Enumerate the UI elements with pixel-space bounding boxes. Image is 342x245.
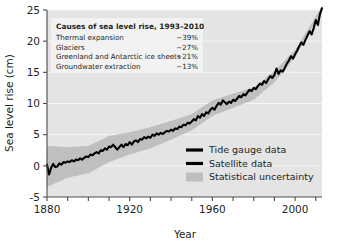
legend-label: Tide gauge data bbox=[208, 144, 286, 155]
annotation-cause-label: Glaciers bbox=[56, 43, 85, 52]
annotation-title: Causes of sea level rise, 1993–2010 bbox=[56, 22, 204, 31]
annotation-cause-label: Groundwater extraction bbox=[56, 62, 141, 71]
annotation-cause-label: Greenland and Antarctic ice sheets bbox=[56, 52, 181, 61]
chart-canvas: -50510152025 1880192019602000 Sea level … bbox=[0, 0, 342, 245]
x-tick-label: 1960 bbox=[199, 203, 226, 215]
x-tick-label: 1880 bbox=[34, 203, 61, 215]
legend-band-swatch bbox=[186, 173, 203, 182]
x-tick-label: 2000 bbox=[282, 203, 309, 215]
y-tick-label: 5 bbox=[33, 128, 40, 140]
legend-label: Statistical uncertainty bbox=[209, 171, 314, 182]
sea-level-rise-chart: -50510152025 1880192019602000 Sea level … bbox=[0, 0, 342, 245]
causes-annotation-box: Causes of sea level rise, 1993–2010Therm… bbox=[51, 18, 204, 72]
y-tick-label: 15 bbox=[27, 66, 40, 78]
x-tick-label: 1920 bbox=[116, 203, 143, 215]
annotation-cause-value: ~27% bbox=[176, 43, 198, 52]
annotation-cause-value: ~39% bbox=[176, 33, 198, 42]
annotation-cause-value: ~21% bbox=[176, 52, 198, 61]
y-tick-label: 10 bbox=[27, 97, 40, 109]
y-tick-label: -5 bbox=[30, 191, 40, 203]
y-tick-label: 0 bbox=[33, 160, 40, 172]
y-axis-title: Sea level rise (cm) bbox=[3, 54, 15, 152]
x-axis-title: Year bbox=[173, 228, 197, 240]
legend-label: Satellite data bbox=[209, 158, 272, 169]
y-tick-label: 25 bbox=[27, 4, 40, 16]
annotation-cause-value: ~13% bbox=[176, 62, 198, 71]
y-tick-label: 20 bbox=[27, 35, 40, 47]
annotation-cause-label: Thermal expansion bbox=[55, 33, 124, 42]
